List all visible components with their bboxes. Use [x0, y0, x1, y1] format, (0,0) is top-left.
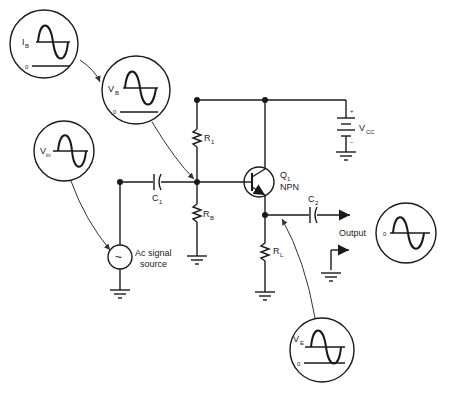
svg-text:−: −: [350, 139, 354, 145]
svg-text:B: B: [115, 90, 119, 96]
svg-text:1: 1: [211, 139, 215, 145]
svg-text:0: 0: [297, 361, 301, 367]
svg-text:R: R: [273, 246, 280, 256]
vcc-label: V: [359, 123, 365, 133]
waveform-output: 0: [376, 203, 436, 263]
resistor-r1: R 1: [193, 100, 215, 182]
svg-text:R: R: [204, 133, 211, 143]
svg-text:0: 0: [383, 231, 387, 237]
svg-text:C: C: [152, 193, 159, 203]
output-ground-reference: [321, 250, 349, 281]
svg-text:L: L: [280, 252, 284, 258]
svg-text:C: C: [308, 194, 315, 204]
ground-icon: [187, 256, 207, 264]
svg-text:0: 0: [113, 109, 117, 115]
emitter-node: [262, 212, 350, 218]
svg-text:1: 1: [159, 199, 163, 205]
svg-text:CC: CC: [366, 129, 375, 135]
svg-text:V: V: [108, 84, 114, 94]
waveform-ib: I B 0: [10, 10, 78, 78]
waveform-vb: V B 0: [102, 56, 170, 124]
svg-text:B: B: [210, 215, 214, 221]
svg-text:Ac signal: Ac signal: [135, 248, 172, 258]
waveform-vin: V in: [34, 121, 94, 181]
ground-icon: [336, 152, 356, 160]
amplifier-circuit-diagram: + − V CC R 1 C 1 R B: [0, 0, 451, 397]
vcc-rail: [194, 97, 346, 118]
capacitor-c1: C 1: [152, 174, 163, 205]
output-label: Output: [339, 228, 367, 238]
svg-text:V: V: [293, 334, 299, 344]
svg-text:+: +: [350, 108, 354, 114]
ground-icon: [255, 292, 275, 300]
svg-text:B: B: [25, 43, 29, 49]
base-node: [117, 179, 245, 185]
vcc-battery: + − V CC: [337, 108, 375, 152]
transistor-q1: Q 1 NPN: [244, 100, 299, 215]
svg-text:in: in: [46, 152, 51, 158]
svg-text:~: ~: [115, 250, 122, 264]
svg-text:E: E: [300, 340, 304, 346]
resistor-rb: R B: [193, 182, 214, 256]
resistor-rl: R L: [261, 215, 284, 292]
waveform-ve: V E 0: [290, 318, 354, 382]
svg-text:R: R: [203, 209, 210, 219]
svg-text:NPN: NPN: [280, 182, 299, 192]
svg-text:source: source: [140, 259, 167, 269]
capacitor-c2: C 2: [308, 194, 319, 223]
ground-icon: [110, 290, 130, 298]
svg-text:Q: Q: [280, 170, 287, 180]
svg-text:2: 2: [315, 200, 319, 206]
svg-text:0: 0: [25, 64, 29, 70]
